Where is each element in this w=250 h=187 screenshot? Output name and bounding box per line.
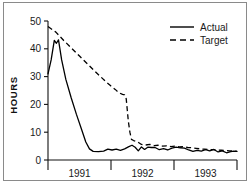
figure-container: 01020304050 199119921993 ActualTarget HO… [0,0,250,187]
y-axis-title: HOURS [8,76,19,113]
series-line-actual [48,40,237,153]
y-tick-label: 10 [30,127,42,138]
x-axis-year-label: 1991 [68,168,91,179]
y-tick-label: 40 [30,43,42,54]
x-axis-year-label: 1992 [131,168,154,179]
y-tick-label: 0 [35,155,41,166]
x-axis-year-label: 1993 [194,168,217,179]
legend-label-actual: Actual [200,22,228,33]
chart-legend: ActualTarget [170,22,228,46]
y-axis: 01020304050 [30,16,48,166]
legend-label-target: Target [200,35,228,46]
y-tick-label: 50 [30,16,42,27]
y-tick-label: 30 [30,71,42,82]
y-tick-label: 20 [30,99,42,110]
line-chart: 01020304050 199119921993 ActualTarget HO… [0,0,250,187]
x-axis: 199119921993 [48,160,237,179]
